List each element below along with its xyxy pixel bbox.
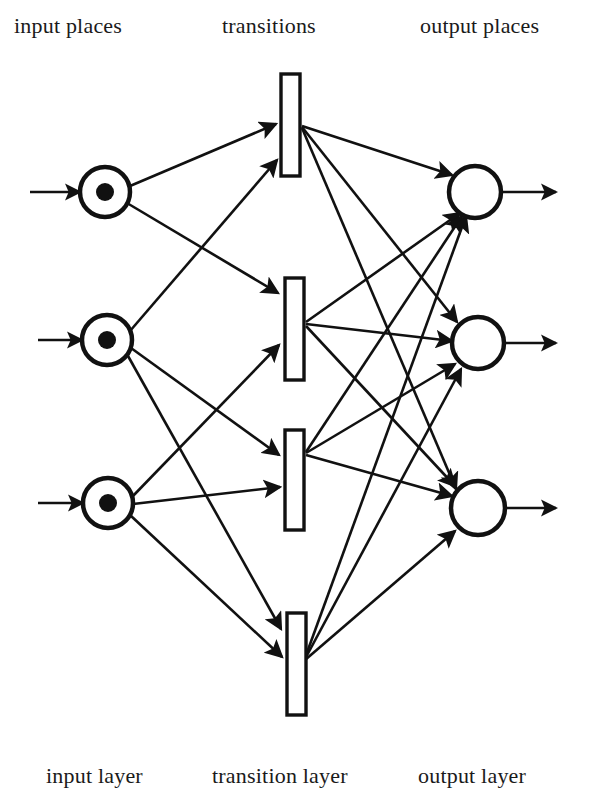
arc-p3-t2 xyxy=(132,345,279,497)
arc-t3-o2 xyxy=(306,364,455,453)
output-place-o3[interactable] xyxy=(451,481,505,535)
arc-t1-o1 xyxy=(302,126,452,175)
arcs-place-to-transition xyxy=(127,124,282,657)
transition-bar-t2[interactable] xyxy=(285,278,304,380)
token-p3 xyxy=(99,494,117,512)
token-p2 xyxy=(98,331,116,349)
label-output-layer: output layer xyxy=(418,762,526,790)
transition-bars xyxy=(281,74,306,715)
petri-net-canvas xyxy=(0,0,591,809)
arc-p2-t1 xyxy=(130,160,277,331)
output-place-o2[interactable] xyxy=(452,317,504,369)
petri-net-figure: input places transitions output places i… xyxy=(0,0,591,809)
bottom-label-row: input layer transition layer output laye… xyxy=(0,762,591,802)
transition-bar-t1[interactable] xyxy=(281,74,300,176)
label-transition-layer: transition layer xyxy=(212,762,348,790)
arc-t3-o1 xyxy=(306,216,462,452)
arc-p2-t4 xyxy=(128,356,281,629)
arcs-transition-to-place xyxy=(302,126,466,660)
input-place-nodes xyxy=(80,167,133,528)
arc-t2-o2 xyxy=(306,324,452,341)
output-place-o1[interactable] xyxy=(449,166,501,218)
arc-p3-t4 xyxy=(130,515,282,657)
transition-bar-t4[interactable] xyxy=(287,613,306,715)
arc-p3-t3 xyxy=(133,487,280,504)
label-input-layer: input layer xyxy=(46,762,143,790)
transition-bar-t3[interactable] xyxy=(285,430,304,530)
arc-t1-o2 xyxy=(302,127,457,322)
token-p1 xyxy=(96,183,114,201)
arc-t4-o2 xyxy=(305,369,461,659)
arc-p1-t1 xyxy=(130,124,276,186)
